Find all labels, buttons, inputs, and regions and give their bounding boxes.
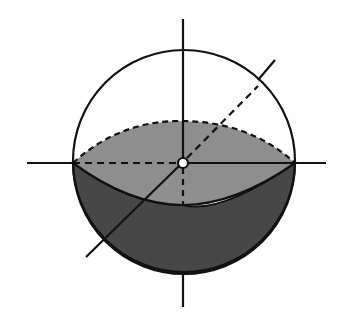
sphere-diagram [0,0,346,328]
oblique-axis-upper [258,60,275,80]
center-point [178,158,188,168]
